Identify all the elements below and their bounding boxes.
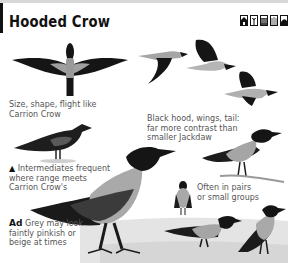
- caption-line: Carrion Crow: [9, 110, 97, 120]
- page-title: Hooded Crow: [9, 13, 110, 31]
- caption-line: faintly pinkish or: [9, 229, 83, 239]
- caption-line: Ad Grey may look: [9, 219, 83, 229]
- groups-caption: Often in pairs or small groups: [197, 183, 259, 202]
- caption-text: Grey may look: [22, 219, 83, 228]
- foraging-crow-illustration: [162, 215, 242, 251]
- perched-crow-illustration: [200, 128, 285, 184]
- caption-line: Black hood, wings, tail:: [147, 114, 240, 124]
- reedbed-icon: [270, 15, 278, 26]
- caption-line: Often in pairs: [197, 183, 259, 193]
- adult-label: Ad: [9, 218, 22, 228]
- house-icon: [240, 15, 248, 26]
- adult-caption: Ad Grey may look faintly pinkish or beig…: [9, 219, 83, 248]
- crow-front-view-illustration: [172, 180, 194, 216]
- standing-crow-right-illustration: [234, 204, 286, 258]
- crow-flight-descending-illustration: [222, 70, 282, 108]
- triangle-marker-icon: ▲: [9, 164, 15, 173]
- wetland-icon: [260, 15, 268, 26]
- crow-flight-below-illustration: [10, 38, 130, 98]
- top-border: [0, 0, 288, 3]
- flight-caption: Size, shape, flight like Carrion Crow: [9, 100, 97, 119]
- caption-line: Size, shape, flight like: [9, 100, 97, 110]
- tree-icon: [250, 15, 258, 26]
- caption-line: beige at times: [9, 238, 83, 248]
- caption-line: or small groups: [197, 193, 259, 203]
- title-accent-bar: [0, 3, 3, 33]
- habitat-icons: [240, 15, 288, 26]
- hill-icon: [280, 15, 288, 26]
